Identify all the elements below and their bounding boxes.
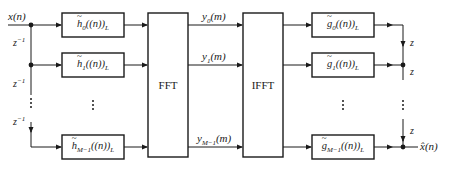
left-junction-1 — [29, 63, 34, 68]
signal-y0-label: y0(m) — [202, 11, 226, 22]
gM1-label: gM−1((n))L — [312, 141, 374, 152]
analysis-ellipsis — [92, 100, 94, 112]
g0-label: g0((n))L — [312, 19, 374, 30]
right-junction-1 — [401, 63, 406, 68]
h1-label: h1((n))L — [62, 59, 124, 70]
left-delay-label-1: z−1 — [13, 38, 25, 48]
right-ellipsis — [402, 100, 404, 112]
left-ellipsis — [30, 98, 32, 110]
fft-label: FFT — [148, 80, 188, 91]
ifft-label: IFFT — [243, 80, 283, 91]
right-delay-label-1: z — [410, 38, 414, 48]
input-label: x(n) — [8, 11, 26, 22]
signal-yM1-label: yM−1(m) — [197, 133, 231, 144]
h0-label: h0((n))L — [62, 19, 124, 30]
right-delay-label-2: z — [410, 67, 414, 77]
synthesis-ellipsis — [342, 100, 344, 112]
input-junction — [29, 23, 34, 28]
signal-y1-label: y1(m) — [202, 51, 226, 62]
g1-label: g1((n))L — [312, 59, 374, 70]
left-delay-label-3: z−1 — [13, 117, 25, 127]
output-junction — [401, 145, 406, 150]
hM1-label: hM−1((n))L — [62, 141, 124, 152]
right-delay-label-3: z — [410, 126, 414, 136]
output-label: x̂(n) — [420, 141, 438, 152]
left-delay-label-2: z−1 — [13, 79, 25, 89]
